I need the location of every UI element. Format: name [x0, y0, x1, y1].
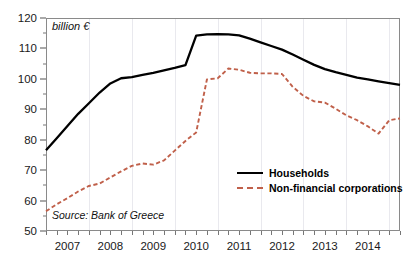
x-axis-minor-tick	[368, 231, 369, 235]
legend-item-label: Households	[269, 167, 329, 179]
x-axis: 20072008200920102011201220132014	[0, 231, 419, 264]
x-axis-minor-tick	[121, 231, 122, 235]
x-axis-minor-tick	[100, 231, 101, 235]
x-axis-tick-label: 2009	[140, 240, 166, 252]
x-axis-minor-tick	[379, 231, 380, 235]
x-axis-minor-tick	[207, 231, 208, 235]
x-axis-minor-tick	[250, 231, 251, 235]
legend-item: Households	[237, 166, 403, 180]
x-axis-minor-tick	[78, 231, 79, 235]
legend-line-swatch-icon	[237, 187, 263, 189]
x-axis-minor-tick	[239, 231, 240, 235]
y-axis-tick-label: 70	[24, 164, 37, 176]
plot-area	[46, 18, 400, 231]
x-axis-minor-tick	[89, 231, 90, 235]
chart-container: 5060708090100110120 billion € Source: Ba…	[0, 0, 419, 264]
x-axis-minor-tick	[153, 231, 154, 235]
y-axis-tick-label: 90	[24, 103, 37, 115]
x-axis-minor-tick	[175, 231, 176, 235]
x-axis-minor-tick	[132, 231, 133, 235]
gridline-vertical	[261, 19, 262, 230]
x-axis-minor-tick	[325, 231, 326, 235]
x-axis-minor-tick	[143, 231, 144, 235]
y-axis: 5060708090100110120	[0, 0, 46, 264]
gridline-vertical	[132, 19, 133, 230]
y-axis-tick-label: 80	[24, 134, 37, 146]
x-axis-minor-tick	[57, 231, 58, 235]
x-axis-minor-tick	[400, 231, 401, 235]
gridline-vertical	[218, 19, 219, 230]
x-axis-tick-label: 2014	[355, 240, 381, 252]
x-axis-minor-tick	[303, 231, 304, 235]
x-axis-minor-tick	[389, 231, 390, 235]
legend-item-label: Non-financial corporations	[269, 182, 403, 194]
x-axis-minor-tick	[346, 231, 347, 235]
x-axis-minor-tick	[293, 231, 294, 235]
x-axis-minor-tick	[218, 231, 219, 235]
x-axis-tick-label: 2010	[183, 240, 209, 252]
x-axis-minor-tick	[110, 231, 111, 235]
x-axis-minor-tick	[357, 231, 358, 235]
x-axis-minor-tick	[336, 231, 337, 235]
y-axis-tick-label: 120	[18, 12, 37, 24]
y-axis-unit-label: billion €	[52, 20, 89, 32]
gridline-vertical	[389, 19, 390, 230]
x-axis-minor-tick	[164, 231, 165, 235]
x-axis-tick-label: 2011	[227, 240, 252, 252]
y-axis-tick-label: 110	[19, 42, 37, 54]
x-axis-tick-label: 2008	[98, 240, 124, 252]
y-axis-tick-label: 60	[24, 195, 37, 207]
x-axis-minor-tick	[46, 231, 47, 235]
source-note: Source: Bank of Greece	[52, 209, 164, 221]
x-axis-minor-tick	[282, 231, 283, 235]
x-axis-tick-label: 2013	[312, 240, 338, 252]
gridline-vertical	[303, 19, 304, 230]
legend: HouseholdsNon-financial corporations	[237, 166, 403, 196]
x-axis-minor-tick	[261, 231, 262, 235]
x-axis-minor-tick	[67, 231, 68, 235]
x-axis-minor-tick	[228, 231, 229, 235]
legend-line-swatch-icon	[237, 172, 263, 174]
y-axis-tick-label: 100	[18, 73, 37, 85]
x-axis-minor-tick	[314, 231, 315, 235]
x-axis-minor-tick	[196, 231, 197, 235]
cropped-title-remnant	[0, 0, 419, 7]
x-axis-minor-tick	[185, 231, 186, 235]
gridline-vertical	[175, 19, 176, 230]
legend-item: Non-financial corporations	[237, 181, 403, 195]
gridline-vertical	[346, 19, 347, 230]
x-axis-tick-label: 2012	[269, 240, 295, 252]
x-axis-minor-tick	[271, 231, 272, 235]
gridline-vertical	[89, 19, 90, 230]
x-axis-tick-label: 2007	[55, 240, 81, 252]
